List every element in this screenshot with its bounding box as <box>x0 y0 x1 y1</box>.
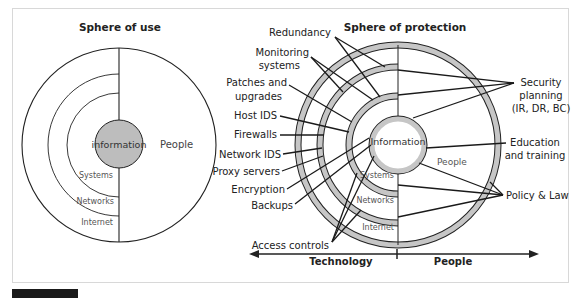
label-education: Education <box>510 137 560 148</box>
sphere-of-use-title: Sphere of use <box>79 21 161 33</box>
networks-label: Networks <box>76 197 114 206</box>
label-security-planning: Security <box>520 77 561 88</box>
label-patches: Patches and <box>226 77 287 88</box>
sphere-of-protection-title: Sphere of protection <box>344 21 467 33</box>
label-security-planning-3: (IR, DR, BC) <box>512 103 571 114</box>
people-label: People <box>160 139 193 150</box>
label-monitoring-2: systems <box>259 60 300 71</box>
label-redundancy: Redundancy <box>269 27 331 38</box>
label-education-2: and training <box>505 150 566 161</box>
sphere-of-use: Sphere of use information People Systems… <box>22 21 216 242</box>
label-encryption: Encryption <box>231 184 285 195</box>
arrow-right-icon <box>529 250 539 258</box>
sphere-of-protection: Sphere of protection Information People … <box>213 21 571 267</box>
label-policy-law: Policy & Law <box>506 190 569 201</box>
people-label: People <box>437 157 467 167</box>
systems-label: Systems <box>79 171 113 180</box>
label-security-planning-2: planning <box>519 90 562 101</box>
information-label: information <box>92 139 147 150</box>
technology-people-axis: Technology People <box>249 249 539 267</box>
axis-technology-label: Technology <box>309 256 373 267</box>
label-patches-2: upgrades <box>235 91 282 102</box>
label-backups: Backups <box>251 200 293 211</box>
label-access-controls: Access controls <box>252 240 329 251</box>
internet-label: Internet <box>81 218 113 227</box>
diagram-canvas: Sphere of use information People Systems… <box>0 0 581 298</box>
arrow-left-icon <box>249 250 259 258</box>
label-firewalls: Firewalls <box>234 129 277 140</box>
label-proxy-servers: Proxy servers <box>213 166 280 177</box>
label-monitoring: Monitoring <box>256 47 309 58</box>
networks-label: Networks <box>356 196 394 205</box>
label-network-ids: Network IDS <box>219 149 281 160</box>
axis-people-label: People <box>434 256 473 267</box>
label-host-ids: Host IDS <box>234 110 277 121</box>
internet-label: Internet <box>362 223 394 232</box>
information-label: Information <box>371 136 426 147</box>
